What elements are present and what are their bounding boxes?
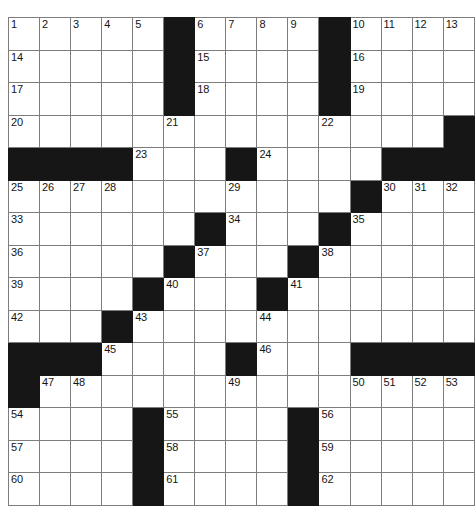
crossword-cell[interactable]: 22 bbox=[319, 115, 350, 148]
crossword-cell[interactable] bbox=[257, 50, 288, 83]
crossword-cell[interactable] bbox=[226, 278, 257, 311]
crossword-cell[interactable] bbox=[412, 408, 443, 441]
crossword-cell[interactable] bbox=[381, 310, 412, 343]
crossword-cell[interactable] bbox=[195, 310, 226, 343]
crossword-cell[interactable]: 32 bbox=[443, 180, 474, 213]
crossword-cell[interactable] bbox=[443, 278, 474, 311]
crossword-cell[interactable]: 49 bbox=[226, 375, 257, 408]
crossword-cell[interactable]: 34 bbox=[226, 213, 257, 246]
crossword-cell[interactable] bbox=[133, 375, 164, 408]
crossword-cell[interactable] bbox=[257, 440, 288, 473]
crossword-cell[interactable]: 16 bbox=[350, 50, 381, 83]
crossword-cell[interactable] bbox=[102, 50, 133, 83]
crossword-cell[interactable] bbox=[226, 408, 257, 441]
crossword-cell[interactable] bbox=[40, 408, 71, 441]
crossword-cell[interactable] bbox=[195, 343, 226, 376]
crossword-cell[interactable] bbox=[71, 245, 102, 278]
crossword-cell[interactable] bbox=[412, 440, 443, 473]
crossword-cell[interactable] bbox=[71, 278, 102, 311]
crossword-cell[interactable]: 43 bbox=[133, 310, 164, 343]
crossword-cell[interactable] bbox=[288, 83, 319, 116]
crossword-cell[interactable]: 52 bbox=[412, 375, 443, 408]
crossword-cell[interactable] bbox=[195, 278, 226, 311]
crossword-cell[interactable] bbox=[195, 180, 226, 213]
crossword-cell[interactable] bbox=[257, 375, 288, 408]
crossword-cell[interactable] bbox=[381, 83, 412, 116]
crossword-cell[interactable]: 61 bbox=[164, 473, 195, 506]
crossword-cell[interactable]: 42 bbox=[9, 310, 40, 343]
crossword-cell[interactable]: 27 bbox=[71, 180, 102, 213]
crossword-cell[interactable]: 28 bbox=[102, 180, 133, 213]
crossword-cell[interactable] bbox=[319, 343, 350, 376]
crossword-cell[interactable]: 8 bbox=[257, 18, 288, 51]
crossword-cell[interactable] bbox=[195, 408, 226, 441]
crossword-cell[interactable]: 55 bbox=[164, 408, 195, 441]
crossword-grid[interactable]: 1234567891011121314151617181920212223242… bbox=[8, 17, 475, 506]
crossword-cell[interactable]: 26 bbox=[40, 180, 71, 213]
crossword-cell[interactable] bbox=[102, 278, 133, 311]
crossword-cell[interactable]: 41 bbox=[288, 278, 319, 311]
crossword-cell[interactable] bbox=[319, 278, 350, 311]
crossword-cell[interactable] bbox=[443, 440, 474, 473]
crossword-cell[interactable] bbox=[381, 50, 412, 83]
crossword-cell[interactable] bbox=[350, 310, 381, 343]
crossword-cell[interactable] bbox=[350, 148, 381, 181]
crossword-cell[interactable] bbox=[257, 473, 288, 506]
crossword-cell[interactable] bbox=[40, 440, 71, 473]
crossword-cell[interactable] bbox=[102, 440, 133, 473]
crossword-cell[interactable] bbox=[381, 278, 412, 311]
crossword-cell[interactable] bbox=[226, 245, 257, 278]
crossword-cell[interactable]: 2 bbox=[40, 18, 71, 51]
crossword-cell[interactable] bbox=[350, 115, 381, 148]
crossword-cell[interactable]: 37 bbox=[195, 245, 226, 278]
crossword-cell[interactable] bbox=[443, 213, 474, 246]
crossword-cell[interactable] bbox=[412, 278, 443, 311]
crossword-cell[interactable] bbox=[226, 115, 257, 148]
crossword-cell[interactable]: 5 bbox=[133, 18, 164, 51]
crossword-cell[interactable] bbox=[350, 408, 381, 441]
crossword-cell[interactable]: 23 bbox=[133, 148, 164, 181]
crossword-cell[interactable] bbox=[40, 245, 71, 278]
crossword-cell[interactable] bbox=[164, 375, 195, 408]
crossword-cell[interactable] bbox=[40, 310, 71, 343]
crossword-cell[interactable] bbox=[133, 343, 164, 376]
crossword-cell[interactable]: 58 bbox=[164, 440, 195, 473]
crossword-cell[interactable] bbox=[195, 440, 226, 473]
crossword-cell[interactable]: 36 bbox=[9, 245, 40, 278]
crossword-cell[interactable] bbox=[381, 115, 412, 148]
crossword-cell[interactable] bbox=[226, 50, 257, 83]
crossword-cell[interactable] bbox=[381, 213, 412, 246]
crossword-cell[interactable]: 18 bbox=[195, 83, 226, 116]
crossword-cell[interactable] bbox=[164, 213, 195, 246]
crossword-cell[interactable]: 33 bbox=[9, 213, 40, 246]
crossword-cell[interactable]: 10 bbox=[350, 18, 381, 51]
crossword-cell[interactable] bbox=[288, 375, 319, 408]
crossword-cell[interactable] bbox=[288, 50, 319, 83]
crossword-cell[interactable] bbox=[443, 245, 474, 278]
crossword-cell[interactable]: 12 bbox=[412, 18, 443, 51]
crossword-cell[interactable]: 14 bbox=[9, 50, 40, 83]
crossword-cell[interactable] bbox=[195, 115, 226, 148]
crossword-cell[interactable] bbox=[71, 440, 102, 473]
crossword-cell[interactable] bbox=[71, 115, 102, 148]
crossword-cell[interactable]: 24 bbox=[257, 148, 288, 181]
crossword-cell[interactable] bbox=[102, 375, 133, 408]
crossword-cell[interactable] bbox=[412, 473, 443, 506]
crossword-cell[interactable]: 30 bbox=[381, 180, 412, 213]
crossword-cell[interactable] bbox=[40, 278, 71, 311]
crossword-cell[interactable]: 3 bbox=[71, 18, 102, 51]
crossword-cell[interactable] bbox=[226, 440, 257, 473]
crossword-cell[interactable]: 38 bbox=[319, 245, 350, 278]
crossword-cell[interactable] bbox=[350, 440, 381, 473]
crossword-cell[interactable] bbox=[412, 115, 443, 148]
crossword-cell[interactable] bbox=[133, 245, 164, 278]
crossword-cell[interactable]: 13 bbox=[443, 18, 474, 51]
crossword-cell[interactable] bbox=[412, 50, 443, 83]
crossword-cell[interactable]: 56 bbox=[319, 408, 350, 441]
crossword-cell[interactable] bbox=[257, 180, 288, 213]
crossword-cell[interactable]: 53 bbox=[443, 375, 474, 408]
crossword-cell[interactable] bbox=[288, 213, 319, 246]
crossword-cell[interactable] bbox=[381, 408, 412, 441]
crossword-cell[interactable] bbox=[257, 213, 288, 246]
crossword-cell[interactable] bbox=[102, 213, 133, 246]
